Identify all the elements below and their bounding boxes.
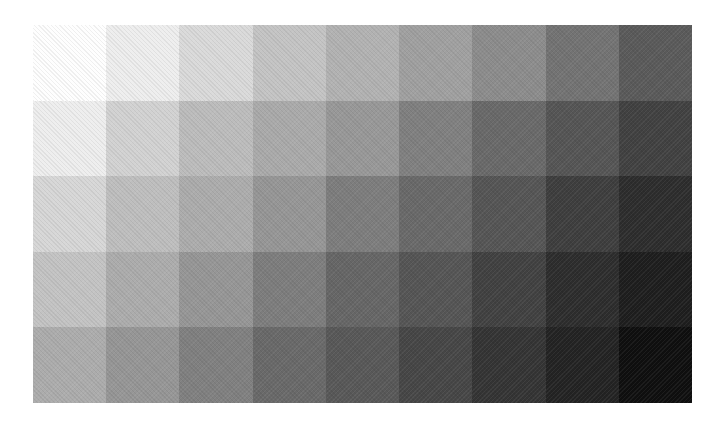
gray-swatch-cell: [619, 25, 692, 101]
gray-swatch-cell: [472, 327, 545, 403]
gray-swatch-cell: [106, 25, 179, 101]
gray-swatch-cell: [253, 252, 326, 328]
gray-swatch-cell: [33, 25, 106, 101]
gray-swatch-cell: [546, 252, 619, 328]
grayscale-chart-canvas: [0, 0, 724, 424]
gray-swatch-cell: [179, 252, 252, 328]
gray-swatch-cell: [33, 101, 106, 177]
gray-swatch-cell: [546, 25, 619, 101]
gray-swatch-cell: [253, 327, 326, 403]
gray-swatch-cell: [33, 327, 106, 403]
gray-swatch-cell: [33, 176, 106, 252]
gray-swatch-cell: [179, 176, 252, 252]
gray-swatch-cell: [546, 176, 619, 252]
gray-swatch-cell: [399, 176, 472, 252]
gray-swatch-cell: [179, 25, 252, 101]
gray-swatch-cell: [546, 327, 619, 403]
gray-swatch-cell: [253, 25, 326, 101]
gray-swatch-cell: [619, 252, 692, 328]
gray-swatch-cell: [472, 176, 545, 252]
gray-swatch-cell: [619, 176, 692, 252]
gray-swatch-cell: [106, 101, 179, 177]
gray-swatch-cell: [326, 101, 399, 177]
gray-swatch-cell: [472, 101, 545, 177]
gray-swatch-cell: [106, 176, 179, 252]
gray-swatch-cell: [619, 327, 692, 403]
gray-swatch-cell: [179, 101, 252, 177]
gray-swatch-cell: [399, 101, 472, 177]
gray-swatch-cell: [326, 176, 399, 252]
gray-swatch-cell: [106, 252, 179, 328]
gray-swatch-cell: [399, 327, 472, 403]
gray-swatch-cell: [253, 176, 326, 252]
gray-swatch-cell: [399, 252, 472, 328]
gray-swatch-cell: [106, 327, 179, 403]
gray-swatch-cell: [546, 101, 619, 177]
gray-swatch-cell: [326, 327, 399, 403]
gray-swatch-cell: [326, 252, 399, 328]
gray-swatch-cell: [326, 25, 399, 101]
gray-swatch-cell: [253, 101, 326, 177]
gray-swatch-cell: [619, 101, 692, 177]
gray-swatch-cell: [33, 252, 106, 328]
gray-swatch-cell: [472, 252, 545, 328]
gray-swatch-cell: [179, 327, 252, 403]
grayscale-grid: [33, 25, 692, 403]
gray-swatch-cell: [472, 25, 545, 101]
gray-swatch-cell: [399, 25, 472, 101]
